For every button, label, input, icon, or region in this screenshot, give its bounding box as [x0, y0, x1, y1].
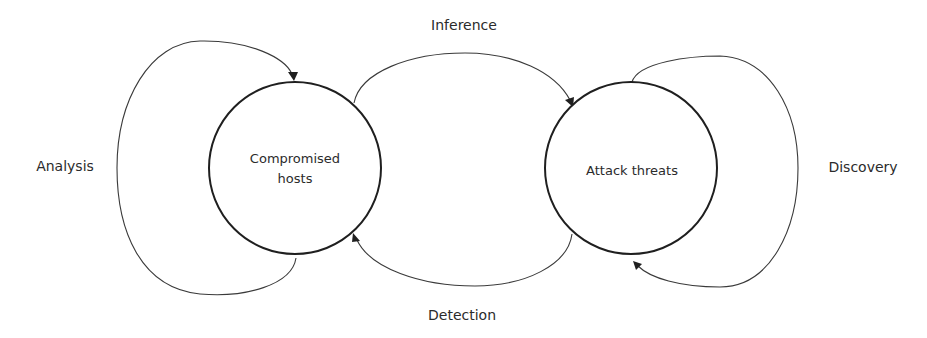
edge-label-analysis: Analysis: [36, 157, 94, 175]
node-label-line: hosts: [235, 169, 355, 189]
node-label-line: Compromised: [235, 149, 355, 169]
inference-edge: [354, 53, 570, 103]
cycle-diagram: [0, 0, 927, 338]
node-label-attack-threats: Attack threats: [572, 161, 692, 181]
node-label-compromised-hosts: Compromised hosts: [235, 149, 355, 189]
edge-label-detection: Detection: [428, 306, 496, 324]
detection-arrow-icon: [352, 233, 360, 242]
node-label-line: Attack threats: [572, 161, 692, 181]
edge-label-discovery: Discovery: [828, 158, 897, 176]
analysis-arrow-icon: [288, 72, 298, 81]
detection-edge: [357, 234, 572, 286]
edge-label-inference: Inference: [431, 16, 497, 34]
